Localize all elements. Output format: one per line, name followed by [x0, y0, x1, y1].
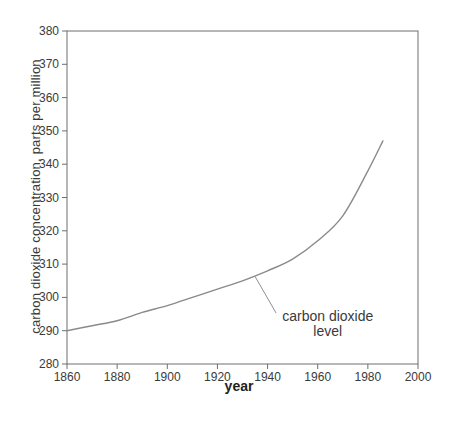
annotation-line-1: carbon dioxide: [282, 309, 373, 324]
annotation-leader-line: [255, 276, 276, 313]
x-axis-title: year: [199, 378, 279, 394]
x-tick-label: 1860: [54, 370, 81, 384]
y-axis-title: carbon dioxide concentration, parts per …: [28, 27, 43, 367]
x-tick-label: 2000: [405, 370, 432, 384]
co2-line-chart: 1860188019001920194019601980200028029030…: [0, 0, 451, 421]
x-tick-label: 1880: [104, 370, 131, 384]
x-tick-label: 1900: [154, 370, 181, 384]
co2-curve: [67, 141, 383, 331]
curve-annotation: carbon dioxide level: [282, 309, 373, 339]
x-tick-label: 1980: [355, 370, 382, 384]
x-tick-label: 1960: [304, 370, 331, 384]
annotation-line-2: level: [282, 324, 373, 339]
plot-area: 1860188019001920194019601980200028029030…: [0, 0, 451, 421]
